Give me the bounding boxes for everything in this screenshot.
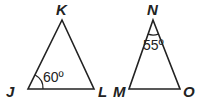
angle-j-arc bbox=[35, 75, 43, 89]
angle-n-arc bbox=[148, 34, 158, 35]
vertex-label-j: J bbox=[6, 83, 15, 100]
triangle-mno: N M O 55º bbox=[113, 1, 195, 100]
vertex-label-k: K bbox=[56, 1, 68, 18]
triangle-jkl: K J L 60º bbox=[6, 1, 107, 100]
triangles-diagram: K J L 60º N M O 55º bbox=[0, 0, 216, 105]
vertex-label-m: M bbox=[113, 83, 126, 100]
angle-j-measure: 60º bbox=[43, 69, 64, 85]
angle-n-measure: 55º bbox=[143, 37, 164, 53]
vertex-label-l: L bbox=[98, 83, 107, 100]
vertex-label-n: N bbox=[147, 1, 159, 18]
vertex-label-o: O bbox=[183, 83, 195, 100]
triangle-mno-outline bbox=[129, 20, 180, 89]
